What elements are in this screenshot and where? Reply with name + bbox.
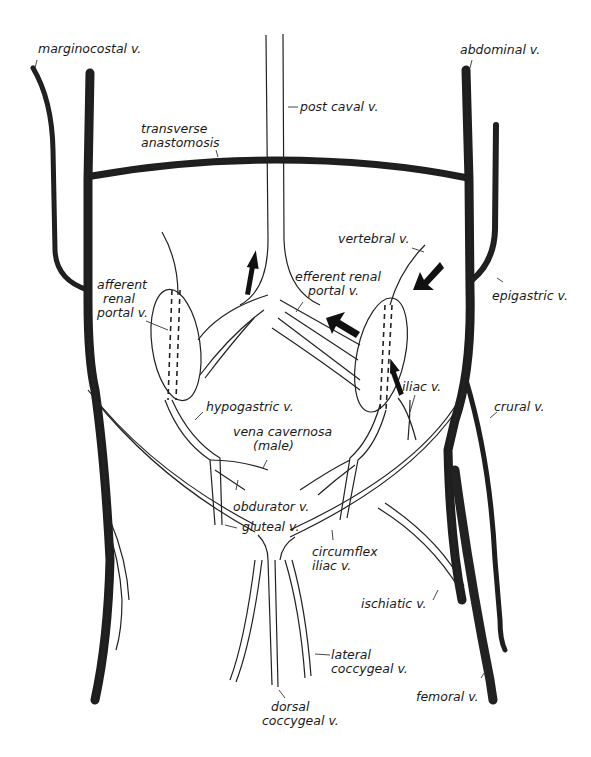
label-line: dorsal <box>262 700 339 714</box>
coccygeal-veins <box>230 535 311 687</box>
label-line: coccygeal v. <box>262 714 339 728</box>
label-abdominal: abdominal v. <box>460 43 540 57</box>
left-abdominal-vein <box>88 73 110 700</box>
label-femoral: femoral v. <box>416 690 479 704</box>
epigastric-vein <box>472 125 496 280</box>
label-lateral-coccygeal: lateral coccygeal v. <box>331 648 408 676</box>
label-line: circumflex <box>312 545 378 559</box>
label-line: portal v. <box>97 306 148 320</box>
label-ischiatic: ischiatic v. <box>361 597 427 611</box>
label-hypogastric: hypogastric v. <box>206 400 294 414</box>
label-efferent-renal-portal: efferent renal portal v. <box>295 270 381 298</box>
label-line: (male) <box>233 439 332 453</box>
label-line: vena cavernosa <box>233 425 332 439</box>
left-kidney <box>144 286 207 404</box>
marginocostal-vein <box>33 68 88 290</box>
venous-diagram <box>0 0 591 757</box>
transverse-anastomosis <box>92 160 468 178</box>
crural-vein <box>466 380 505 650</box>
left-afferent-upper <box>162 232 178 295</box>
label-line: coccygeal v. <box>331 662 408 676</box>
label-line: anastomosis <box>141 136 220 150</box>
label-obdurator: obdurator v. <box>233 500 309 514</box>
label-epigastric: epigastric v. <box>492 289 568 303</box>
label-transverse-anastomosis: transverse anastomosis <box>141 122 220 150</box>
label-line: iliac v. <box>312 559 378 573</box>
label-line: lateral <box>331 648 408 662</box>
label-circumflex-iliac: circumflex iliac v. <box>312 545 378 573</box>
label-iliac: iliac v. <box>402 380 441 394</box>
label-dorsal-coccygeal: dorsal coccygeal v. <box>262 700 339 728</box>
arrow-up-icon <box>242 249 262 295</box>
label-vertebral: vertebral v. <box>338 232 409 246</box>
arrow-up-left-icon <box>326 312 360 338</box>
label-crural: crural v. <box>494 400 545 414</box>
label-post-caval: post caval v. <box>300 100 378 114</box>
label-line: transverse <box>141 122 220 136</box>
label-marginocostal: marginocostal v. <box>38 42 141 56</box>
label-vena-cavernosa: vena cavernosa (male) <box>233 425 332 453</box>
arrow-down-left-icon <box>413 262 444 290</box>
efferent-renal-portal-veins <box>198 295 360 390</box>
label-line: efferent renal <box>295 270 381 284</box>
label-gluteal: gluteal v. <box>242 520 299 534</box>
label-afferent-renal-portal: afferent renal portal v. <box>97 278 148 320</box>
label-line: renal <box>97 292 148 306</box>
label-line: portal v. <box>295 284 381 298</box>
right-kidney <box>345 293 416 416</box>
label-line: afferent <box>97 278 148 292</box>
